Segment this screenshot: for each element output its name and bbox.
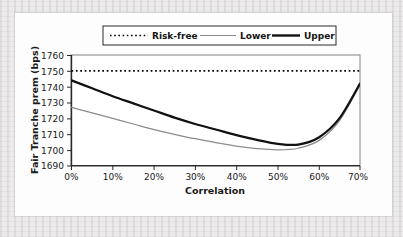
y-tick-label: 1720 [41,114,64,124]
y-tick-label: 1690 [41,161,64,171]
x-tick-label: 0% [64,172,79,182]
x-tick-label: 20% [144,172,164,182]
x-tick-label: 50% [268,172,288,182]
x-tick-label: 70% [348,172,368,182]
line-chart: Risk-free Lower Upper 1760 [0,0,403,237]
y-tick-label: 1710 [41,130,64,140]
x-tick-label: 40% [227,172,247,182]
y-tick-label: 1730 [41,98,64,108]
y-tick-label: 1700 [41,146,64,156]
x-axis-title: Correlation [185,185,245,196]
y-tick-label: 1750 [41,67,64,77]
x-tick-label: 10% [103,172,123,182]
x-axis-ticks [72,166,361,170]
chart-legend: Risk-free Lower Upper [103,26,336,45]
legend-label-upper: Upper [304,31,335,41]
legend-label-lower: Lower [240,31,271,41]
y-tick-label: 1740 [41,83,64,93]
x-tick-label: 60% [309,172,329,182]
x-tick-label: 30% [185,172,205,182]
y-tick-label: 1760 [41,51,64,61]
y-axis-title: Fair Tranche prem (bps) [29,46,40,174]
x-axis-tick-labels: 0% 10% 20% 30% 40% 50% 60% 70% [64,172,368,182]
plot-frame [71,55,360,166]
legend-label-risk-free: Risk-free [152,31,198,41]
figure-container: Risk-free Lower Upper 1760 [0,0,403,237]
y-axis-tick-labels: 1760 1750 1740 1730 1720 1710 1700 1690 [41,51,64,172]
